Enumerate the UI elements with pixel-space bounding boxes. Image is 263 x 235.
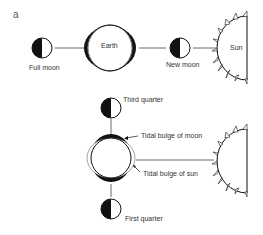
earth-bottom: [87, 134, 135, 182]
tidal-bulge-moon-arrow: [124, 136, 138, 140]
full-moon-label: Full moon: [29, 64, 60, 71]
new-moon: [170, 38, 190, 58]
tidal-bulge-sun-arrow: [133, 165, 140, 172]
earth-label: Earth: [101, 42, 118, 49]
panel-label: a: [13, 9, 19, 20]
tidal-bulge-sun-label: Tidal bulge of sun: [143, 170, 198, 178]
tides-diagram: a Full moon Earth New moon: [0, 0, 263, 235]
tidal-bulge-moon-label: Tidal bulge of moon: [141, 132, 202, 140]
full-moon: [32, 38, 52, 58]
first-quarter-label: First quarter: [125, 215, 163, 223]
first-quarter-moon: [101, 199, 121, 219]
third-quarter-moon: [101, 98, 121, 118]
new-moon-label: New moon: [166, 61, 200, 68]
third-quarter-label: Third quarter: [123, 96, 164, 104]
sun-label: Sun: [230, 44, 243, 51]
sun-bottom: [212, 124, 247, 197]
